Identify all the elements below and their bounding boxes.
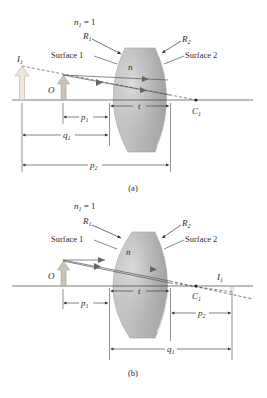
r1-leader-arrow <box>92 225 121 238</box>
r1-leader-arrow <box>92 39 121 54</box>
radius-r1-label: R1 <box>82 31 92 42</box>
object-arrow <box>58 75 70 100</box>
object-label: O <box>48 271 55 281</box>
surface-2-label: Surface 2 <box>185 50 217 60</box>
center-label-c1: C1 <box>192 291 201 302</box>
image-label-i1: I1 <box>216 272 223 283</box>
radius-r2-label: R2 <box>181 34 191 45</box>
panel-a-caption: (a) <box>128 183 138 193</box>
ray-direction-arrow <box>96 79 103 86</box>
dimension-p1-label: p1 <box>80 298 89 309</box>
dimension-q1-label: q1 <box>63 130 71 141</box>
dimension-q1-label: q1 <box>167 344 175 355</box>
r2-leader-arrow <box>162 41 181 53</box>
panel-b-caption: (b) <box>128 368 138 378</box>
surface-1-label: Surface 1 <box>51 50 83 60</box>
surface-1-leader <box>94 56 117 64</box>
center-label-c1: C1 <box>192 106 201 117</box>
object-label: O <box>48 85 55 95</box>
panel-a: n1 = 1 R1 R2 Surface 1 Surface 2 n I1 O <box>12 17 253 193</box>
lens-index-label: n <box>126 247 131 257</box>
surrounding-index-label: n1 = 1 <box>74 17 96 28</box>
surface-1-label: Surface 1 <box>51 234 83 244</box>
surface-2-leader <box>164 240 184 249</box>
surface-1-leader <box>94 240 117 249</box>
dimension-p2-label: p2 <box>89 160 98 171</box>
lens-index-label: n <box>128 62 133 72</box>
lens-highlight <box>113 232 168 338</box>
dashed-ray-extension <box>170 281 253 299</box>
center-point-c1 <box>195 285 198 288</box>
dimension-p2-label: p2 <box>197 308 206 319</box>
ray-direction-arrow <box>98 257 105 263</box>
object-arrow <box>58 261 70 286</box>
r2-leader-arrow <box>162 225 181 238</box>
surface-2-label: Surface 2 <box>185 234 217 244</box>
dimension-p1-label: p1 <box>80 112 89 123</box>
image-arrow-i1 <box>15 66 29 100</box>
surface-2-leader <box>164 56 184 64</box>
dashed-ray-extension <box>170 283 233 292</box>
radius-r2-label: R2 <box>181 218 191 229</box>
thick-lens-diagram: n1 = 1 R1 R2 Surface 1 Surface 2 n I1 O <box>0 0 267 398</box>
image-label-i1: I1 <box>16 54 23 65</box>
surrounding-index-label: n1 = 1 <box>74 201 96 212</box>
radius-r1-label: R1 <box>82 216 92 227</box>
panel-b: n1 = 1 R1 R2 Surface 1 Surface 2 n O C1 <box>12 201 253 378</box>
center-point-c1 <box>195 99 198 102</box>
image-point-i1 <box>230 287 234 291</box>
